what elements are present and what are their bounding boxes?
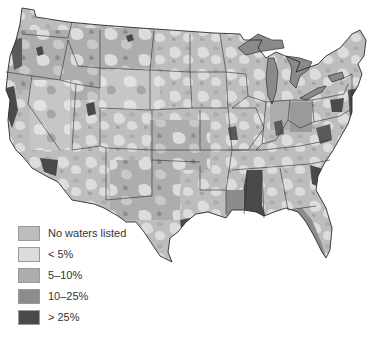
legend-label: > 25%: [48, 311, 80, 323]
legend-label: 5–10%: [48, 269, 82, 281]
legend-label: < 5%: [48, 248, 73, 260]
legend-swatch: [18, 226, 40, 241]
legend-item-no-waters: No waters listed: [18, 226, 138, 247]
legend-item-lt5: < 5%: [18, 247, 138, 268]
legend: No waters listed < 5% 5–10% 10–25% > 25%: [18, 226, 138, 331]
legend-swatch: [18, 268, 40, 283]
legend-swatch: [18, 289, 40, 304]
legend-item-10to25: 10–25%: [18, 289, 138, 310]
legend-label: No waters listed: [48, 227, 126, 239]
legend-item-gt25: > 25%: [18, 310, 138, 331]
legend-label: 10–25%: [48, 290, 88, 302]
legend-swatch: [18, 247, 40, 262]
legend-item-5to10: 5–10%: [18, 268, 138, 289]
legend-swatch: [18, 310, 40, 325]
